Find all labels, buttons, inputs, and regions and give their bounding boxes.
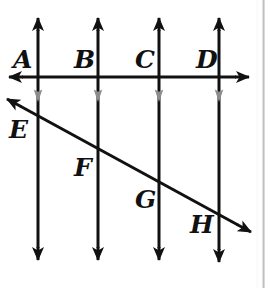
- geometry-diagram: A B C D E F G H: [0, 0, 271, 288]
- label-point-e: E: [9, 117, 28, 142]
- label-point-h: H: [190, 212, 214, 237]
- diagonal-transversal: [7, 99, 251, 232]
- parallel-line-a: [34, 18, 43, 260]
- label-point-a: A: [13, 47, 32, 72]
- diagonal-line-lower-right-arrow: [237, 225, 251, 233]
- label-point-d: D: [196, 47, 218, 72]
- diagram-svg: [0, 0, 271, 288]
- label-point-f: F: [74, 155, 92, 180]
- diagonal-line-upper-left-arrow: [7, 99, 21, 107]
- label-point-b: B: [74, 47, 95, 72]
- label-point-g: G: [135, 187, 156, 212]
- diagonal-line-body: [20, 106, 238, 225]
- page-edge-shadow: [262, 0, 265, 288]
- label-point-c: C: [135, 47, 155, 72]
- parallel-line-c: [155, 18, 164, 260]
